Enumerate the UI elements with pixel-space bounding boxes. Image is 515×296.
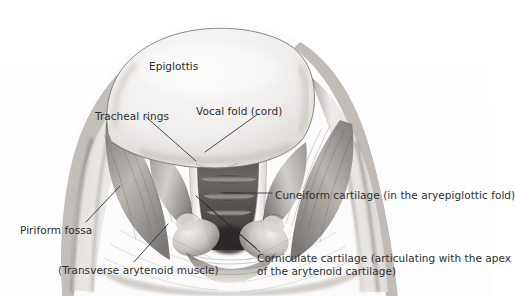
label-cuneiform-cartilage: Cuneiform cartilage (in the aryepiglotti… (275, 189, 515, 202)
label-corniculate-cartilage: Corniculate cartilage (articulating with… (257, 252, 511, 277)
label-tracheal-rings: Tracheal rings (95, 110, 169, 123)
label-piriform-fossa: Piriform fossa (20, 224, 92, 237)
label-epiglottis: Epiglottis (149, 60, 198, 73)
label-vocal-fold: Vocal fold (cord) (196, 105, 282, 118)
label-transverse-arytenoid-muscle: (Transverse arytenoid muscle) (58, 264, 219, 277)
